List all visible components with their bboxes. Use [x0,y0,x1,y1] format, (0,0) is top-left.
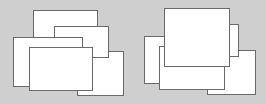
window-rectangle [164,8,230,67]
window-rectangle [29,47,93,91]
